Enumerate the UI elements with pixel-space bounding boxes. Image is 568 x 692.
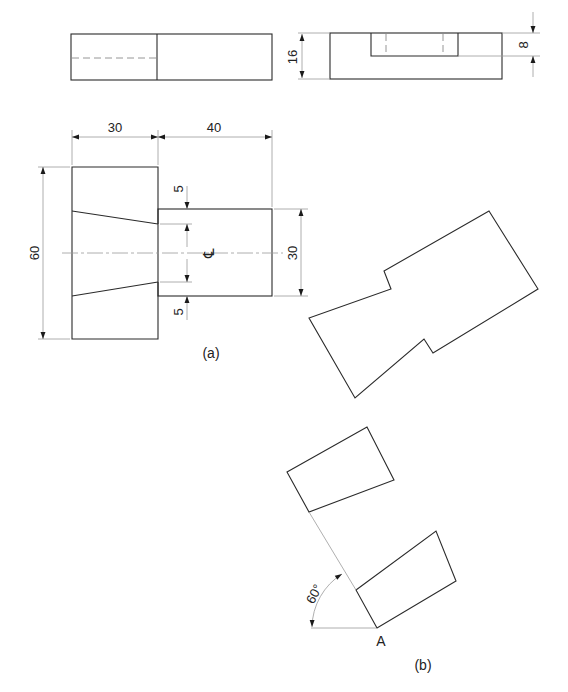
construction-view-b: 60° A (b) — [287, 427, 456, 673]
point-a-label: A — [376, 633, 386, 649]
side-elevation-view: 16 8 — [285, 12, 540, 79]
plan-view-a: ℄ 30 40 60 30 5 5 (a) — [27, 120, 308, 361]
dim-40-width-label: 40 — [207, 120, 221, 135]
dim-30-height-label: 30 — [285, 246, 300, 260]
dim-60-height-label: 60 — [27, 246, 42, 260]
dim-5-bottom-label: 5 — [171, 308, 186, 315]
dim-30-width-label: 30 — [108, 120, 122, 135]
angle-60-label: 60° — [303, 582, 325, 606]
front-elevation-view — [71, 34, 272, 80]
rotated-plan-view — [309, 211, 538, 398]
dim-8-label: 8 — [516, 41, 531, 48]
technical-drawing: 16 8 ℄ 30 40 60 — [0, 0, 568, 692]
dim-5-top-label: 5 — [171, 185, 186, 192]
centerline-symbol: ℄ — [200, 248, 217, 259]
caption-b: (b) — [414, 657, 431, 673]
dim-16-label: 16 — [285, 50, 300, 64]
caption-a: (a) — [202, 345, 219, 361]
